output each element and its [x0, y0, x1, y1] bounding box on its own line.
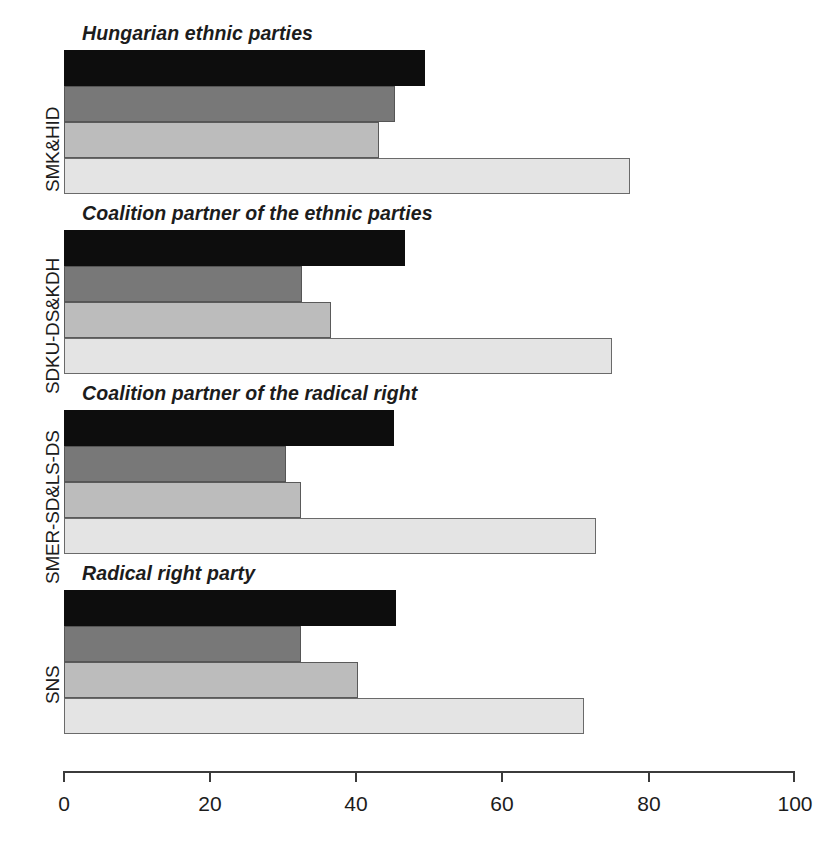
bar-series-3: [64, 662, 358, 698]
bar-series-1: [64, 230, 405, 266]
bar-series-1: [64, 410, 394, 446]
group-title-3: Coalition partner of the radical right: [82, 382, 417, 405]
bar-series-2: [64, 446, 286, 482]
x-axis-tick-label: 40: [344, 792, 367, 816]
group-title-2: Coalition partner of the ethnic parties: [82, 202, 433, 225]
x-axis-tick: [501, 771, 503, 782]
x-axis-tick-label: 60: [490, 792, 513, 816]
bar-series-3: [64, 482, 301, 518]
category-label-4: SNS: [42, 666, 64, 704]
category-label-1: SMK&HID: [42, 107, 64, 192]
bar-series-3: [64, 302, 331, 338]
bar-series-1: [64, 590, 396, 626]
x-axis-tick: [793, 771, 795, 782]
bar-series-4: [64, 518, 596, 554]
x-axis-tick: [648, 771, 650, 782]
category-label-3: SMER-SD&LS-DS: [42, 430, 64, 584]
bar-series-4: [64, 698, 584, 734]
bar-series-2: [64, 266, 302, 302]
group-title-1: Hungarian ethnic parties: [82, 22, 313, 45]
category-label-2: SDKU-DS&KDH: [42, 258, 64, 394]
x-axis-tick-label: 100: [777, 792, 812, 816]
x-axis-line: [63, 771, 795, 773]
group-title-4: Radical right party: [82, 562, 255, 585]
x-axis-tick-label: 80: [637, 792, 660, 816]
bar-series-2: [64, 626, 301, 662]
x-axis-tick-label: 0: [58, 792, 70, 816]
bar-chart: Hungarian ethnic parties SMK&HID Coaliti…: [0, 0, 840, 868]
bar-series-1: [64, 50, 425, 86]
bar-series-3: [64, 122, 379, 158]
x-axis-tick: [63, 771, 65, 782]
bar-series-4: [64, 158, 630, 194]
bar-series-4: [64, 338, 612, 374]
x-axis-tick: [209, 771, 211, 782]
x-axis-tick: [355, 771, 357, 782]
x-axis-tick-label: 20: [198, 792, 221, 816]
bar-series-2: [64, 86, 395, 122]
plot-area: Hungarian ethnic parties SMK&HID Coaliti…: [0, 0, 840, 868]
